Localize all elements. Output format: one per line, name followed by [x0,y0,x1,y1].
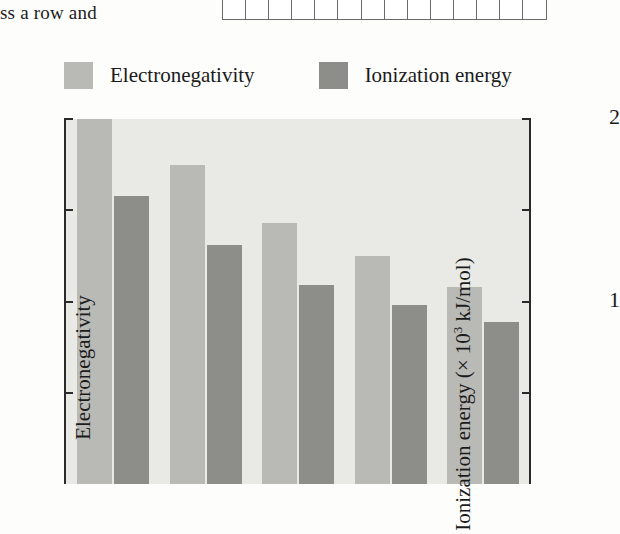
answer-grid-cell[interactable] [523,0,546,19]
answer-grid-cell[interactable] [431,0,454,19]
bar-electronegativity [170,165,205,484]
y-axis-right-tick [522,209,531,211]
answer-grid-cell[interactable] [454,0,477,19]
answer-grid-cell[interactable] [223,0,246,19]
legend-label: Electronegativity [110,63,255,88]
legend-swatch-electronegativity [64,62,93,89]
chart-legend: ElectronegativityIonization energy [64,62,512,89]
y-axis-right-title-suffix: kJ/mol) [451,257,475,326]
bar-electronegativity [262,223,297,484]
bar-ionization-energy [114,196,149,484]
y-axis-left-tick [64,209,73,211]
bar-electronegativity [355,256,390,484]
y-axis-right-tick [522,301,531,303]
legend-swatch-ionization-energy [319,62,348,89]
answer-grid-cell[interactable] [338,0,361,19]
y-axis-left-tick [64,118,73,120]
y-axis-right-tick [522,118,531,120]
answer-grid-cell[interactable] [385,0,408,19]
y-axis-right-title-exponent: 3 [450,327,465,334]
answer-grid-cell[interactable] [315,0,338,19]
bar-ionization-energy [392,305,427,484]
answer-grid-cell[interactable] [408,0,431,19]
answer-grid-cell[interactable] [292,0,315,19]
bar-ionization-energy [207,245,242,484]
page-text-fragment: ss a row and [0,2,97,24]
y-axis-right-tick-label: 1 [609,289,620,311]
legend-label: Ionization energy [365,63,512,88]
y-axis-right-tick [522,392,531,394]
answer-grid-cell[interactable] [246,0,269,19]
bar-ionization-energy [484,322,519,484]
y-axis-left-title: Electronegativity [71,218,96,518]
answer-grid-cell[interactable] [500,0,523,19]
y-axis-right-title-prefix: Ionization energy (× 10 [451,333,475,530]
y-axis-right-tick-label: 2 [609,106,620,128]
answer-grid-cell[interactable] [362,0,385,19]
bar-ionization-energy [299,285,334,484]
bar-chart: 4321 21 Electronegativity Ionization ene… [64,119,531,484]
legend-item: Ionization energy [319,62,512,89]
answer-grid-cell[interactable] [477,0,500,19]
legend-item: Electronegativity [64,62,255,89]
answer-grid-cell[interactable] [269,0,292,19]
y-axis-right-title: Ionization energy (× 103 kJ/mol) [450,224,476,534]
answer-grid[interactable] [222,0,547,20]
